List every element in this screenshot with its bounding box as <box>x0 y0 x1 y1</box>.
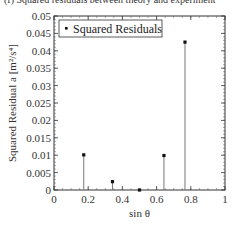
legend-marker <box>65 27 68 30</box>
stem-marker <box>111 180 114 183</box>
y-tick-label: 0.045 <box>26 27 51 39</box>
plot-frame <box>54 16 225 190</box>
stem-marker <box>162 154 165 157</box>
x-tick-label: 0.6 <box>150 193 164 205</box>
y-tick-label: 0.005 <box>26 167 51 179</box>
y-tick-label: 0.02 <box>32 114 51 126</box>
x-tick-label: 0.8 <box>184 193 198 205</box>
x-axis-label: sin θ <box>129 207 150 219</box>
x-tick-label: 0 <box>51 193 57 205</box>
x-tick-label: 0.4 <box>116 193 130 205</box>
y-tick-label: 0.01 <box>32 149 51 161</box>
y-axis-label: Squared Residual a [m²/s⁴] <box>6 44 18 162</box>
legend-label: Squared Residuals <box>73 22 162 36</box>
stem-chart: 00.0050.010.0150.020.0250.030.0350.040.0… <box>0 0 233 225</box>
y-tick-label: 0.035 <box>26 62 51 74</box>
stem-marker <box>138 188 141 191</box>
y-tick-label: 0.04 <box>32 45 52 57</box>
y-tick-label: 0.025 <box>26 97 51 109</box>
x-tick-label: 1 <box>222 193 228 205</box>
stem-marker <box>183 41 186 44</box>
stem-marker <box>82 153 85 156</box>
y-tick-label: 0.05 <box>32 10 52 22</box>
y-tick-label: 0.03 <box>32 80 52 92</box>
x-tick-label: 0.2 <box>81 193 95 205</box>
y-tick-label: 0.015 <box>26 132 51 144</box>
